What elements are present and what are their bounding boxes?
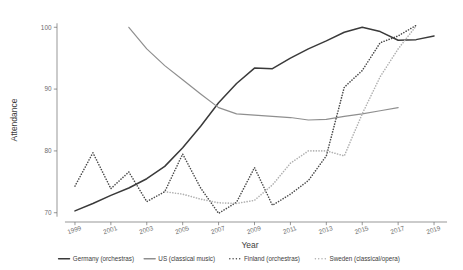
y-axis-title: Attendance bbox=[9, 98, 19, 141]
legend-label-0[interactable]: Germany (orchestras) bbox=[73, 255, 134, 263]
attendance-line-chart: 708090100 199920012003200520072009201120… bbox=[0, 0, 463, 270]
legend-label-3[interactable]: Sweden (classical/opera) bbox=[330, 255, 400, 263]
chart-container: 708090100 199920012003200520072009201120… bbox=[0, 0, 463, 270]
legend-label-2[interactable]: Finland (orchestras) bbox=[244, 255, 300, 263]
x-axis-title: Year bbox=[241, 240, 258, 250]
y-tick-label: 90 bbox=[44, 85, 52, 92]
legend-label-1[interactable]: US (classical music) bbox=[158, 255, 215, 263]
y-tick-label: 70 bbox=[44, 209, 52, 216]
y-tick-label: 100 bbox=[41, 24, 52, 31]
y-tick-label: 80 bbox=[44, 147, 52, 154]
